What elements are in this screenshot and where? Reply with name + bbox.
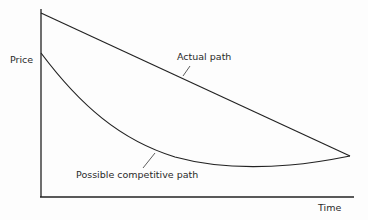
- competitive-path-label: Possible competitive path: [76, 169, 198, 180]
- diagram-graphics: [0, 0, 368, 220]
- y-axis-label: Price: [10, 54, 33, 65]
- x-axis-label: Time: [318, 202, 341, 213]
- actual-path-leader: [183, 66, 190, 76]
- actual-path-label: Actual path: [177, 51, 231, 62]
- price-path-diagram: Price Time Actual path Possible competit…: [0, 0, 368, 220]
- competitive-path-curve: [41, 53, 350, 167]
- competitive-path-leader: [143, 153, 155, 168]
- actual-path-line: [41, 13, 350, 156]
